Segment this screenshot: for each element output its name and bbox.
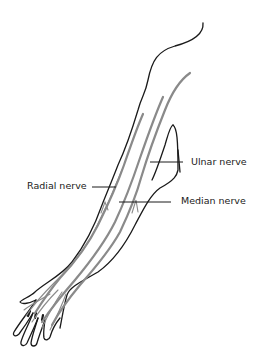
ulnar-nerve-label: Ulnar nerve [191, 157, 247, 167]
median-nerve-label: Median nerve [181, 196, 246, 206]
finger-little [44, 318, 60, 340]
arm-outline-lower [60, 125, 178, 328]
radial-nerve-label: Radial nerve [27, 181, 87, 191]
arm-outline-upper [20, 23, 203, 303]
